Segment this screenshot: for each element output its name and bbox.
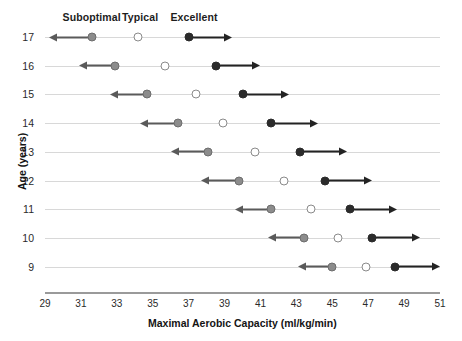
arrow-head-right-icon <box>281 90 289 98</box>
arrow-shaft <box>216 65 255 67</box>
x-axis-line <box>45 292 440 294</box>
x-tick-41: 41 <box>255 298 266 309</box>
excellent-marker-age-10 <box>367 233 376 242</box>
arrow-head-left-icon <box>79 62 87 70</box>
typical-marker-age-10 <box>333 233 342 242</box>
arrow-shaft <box>189 36 226 38</box>
aerobic-capacity-chart: SuboptimalTypicalExcellent17161514131211… <box>0 0 462 341</box>
row-gridline-age-9 <box>45 267 440 268</box>
excellent-marker-age-17 <box>184 33 193 42</box>
suboptimal-arrow-age-12 <box>201 176 239 185</box>
arrow-head-left-icon <box>49 33 57 41</box>
suboptimal-marker-age-10 <box>299 233 308 242</box>
excellent-arrow-age-14 <box>271 119 318 128</box>
x-tick-47: 47 <box>363 298 374 309</box>
x-tick-39: 39 <box>219 298 230 309</box>
suboptimal-marker-age-12 <box>234 176 243 185</box>
typical-marker-age-9 <box>362 262 371 271</box>
arrow-head-right-icon <box>412 234 420 242</box>
suboptimal-marker-age-9 <box>328 262 337 271</box>
x-tick-29: 29 <box>39 298 50 309</box>
excellent-marker-age-11 <box>346 205 355 214</box>
x-tick-51: 51 <box>434 298 445 309</box>
arrow-head-right-icon <box>432 263 440 271</box>
y-tick-16: 16 <box>8 60 34 72</box>
typical-marker-age-17 <box>134 33 143 42</box>
suboptimal-marker-age-17 <box>87 33 96 42</box>
arrow-head-right-icon <box>339 148 347 156</box>
suboptimal-arrow-age-15 <box>110 90 148 99</box>
suboptimal-arrow-age-13 <box>171 147 209 156</box>
typical-marker-age-12 <box>279 176 288 185</box>
arrow-head-right-icon <box>310 119 318 127</box>
excellent-arrow-age-11 <box>350 205 397 214</box>
excellent-arrow-age-16 <box>216 61 261 70</box>
x-axis-title: Maximal Aerobic Capacity (ml/kg/min) <box>148 317 337 329</box>
x-tick-43: 43 <box>291 298 302 309</box>
suboptimal-marker-age-16 <box>111 61 120 70</box>
arrow-head-left-icon <box>201 177 209 185</box>
y-tick-15: 15 <box>8 88 34 100</box>
row-gridline-age-13 <box>45 152 440 153</box>
arrow-head-left-icon <box>298 263 306 271</box>
legend-label-suboptimal: Suboptimal <box>63 11 121 23</box>
arrow-head-right-icon <box>364 177 372 185</box>
y-axis-title: Age (years) <box>16 133 28 190</box>
excellent-marker-age-13 <box>295 147 304 156</box>
excellent-marker-age-9 <box>391 262 400 271</box>
row-gridline-age-14 <box>45 123 440 124</box>
x-tick-31: 31 <box>75 298 86 309</box>
plot-area: SuboptimalTypicalExcellent17161514131211… <box>0 0 462 341</box>
arrow-shaft <box>372 237 414 239</box>
arrow-shaft <box>271 122 312 124</box>
arrow-shaft <box>350 208 391 210</box>
typical-marker-age-14 <box>218 119 227 128</box>
x-tick-35: 35 <box>147 298 158 309</box>
excellent-arrow-age-9 <box>395 262 440 271</box>
suboptimal-marker-age-14 <box>173 119 182 128</box>
excellent-arrow-age-13 <box>300 147 347 156</box>
typical-marker-age-16 <box>161 61 170 70</box>
excellent-arrow-age-15 <box>243 90 290 99</box>
arrow-shaft <box>395 266 434 268</box>
arrow-head-left-icon <box>171 148 179 156</box>
excellent-marker-age-16 <box>211 61 220 70</box>
arrow-shaft <box>325 180 366 182</box>
y-tick-14: 14 <box>8 117 34 129</box>
typical-marker-age-13 <box>251 147 260 156</box>
arrow-head-left-icon <box>110 90 118 98</box>
arrow-head-right-icon <box>252 62 260 70</box>
typical-marker-age-15 <box>191 90 200 99</box>
suboptimal-marker-age-13 <box>204 147 213 156</box>
excellent-marker-age-12 <box>321 176 330 185</box>
x-tick-37: 37 <box>183 298 194 309</box>
x-tick-33: 33 <box>111 298 122 309</box>
arrow-head-right-icon <box>389 205 397 213</box>
excellent-arrow-age-12 <box>325 176 372 185</box>
suboptimal-arrow-age-14 <box>140 119 178 128</box>
y-tick-10: 10 <box>8 232 34 244</box>
arrow-head-left-icon <box>268 234 276 242</box>
y-tick-11: 11 <box>8 203 34 215</box>
y-tick-9: 9 <box>8 261 34 273</box>
arrow-shaft <box>300 151 341 153</box>
suboptimal-marker-age-15 <box>143 90 152 99</box>
arrow-head-right-icon <box>224 33 232 41</box>
x-tick-45: 45 <box>327 298 338 309</box>
excellent-marker-age-15 <box>238 90 247 99</box>
arrow-head-left-icon <box>140 119 148 127</box>
legend-label-excellent: Excellent <box>171 11 218 23</box>
excellent-arrow-age-10 <box>372 233 420 242</box>
typical-marker-age-11 <box>306 205 315 214</box>
arrow-shaft <box>55 36 92 38</box>
x-tick-49: 49 <box>399 298 410 309</box>
legend-label-typical: Typical <box>122 11 158 23</box>
suboptimal-arrow-age-17 <box>49 33 92 42</box>
excellent-marker-age-14 <box>267 119 276 128</box>
arrow-head-left-icon <box>235 205 243 213</box>
arrow-shaft <box>243 93 284 95</box>
y-tick-17: 17 <box>8 31 34 43</box>
excellent-arrow-age-17 <box>189 33 232 42</box>
suboptimal-marker-age-11 <box>267 205 276 214</box>
row-gridline-age-17 <box>45 37 440 38</box>
